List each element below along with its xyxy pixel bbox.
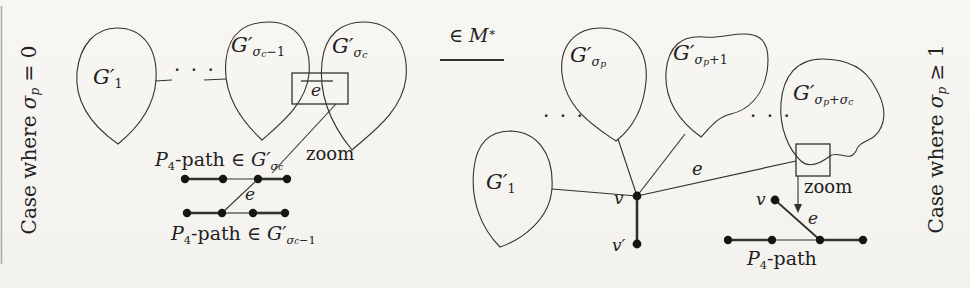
edge-g1-to-dots-left (155, 80, 172, 81)
vprime-label: v′ (612, 237, 625, 254)
ellipsis-right-1: · · · (543, 106, 585, 126)
vertex-v (633, 192, 642, 201)
vertex-dot (254, 175, 262, 183)
p4-bottom-label: P4-path ∈ G′σc−1 (171, 224, 316, 246)
vertex-dot (816, 236, 824, 244)
blob-gsp-plus1-label: G′σp+1 (673, 43, 728, 67)
blob-g1-left-label: G′1 (93, 67, 123, 91)
figure-canvas: Case where σp = 0 G′1 · · · G′σc−1 G′σc … (0, 0, 970, 288)
vertex-dot (768, 236, 776, 244)
blob-g1-right-label: G′1 (486, 172, 516, 196)
ellipsis-right-2: · · · (750, 106, 792, 126)
zoom-label-left: zoom (306, 145, 354, 163)
edge-e-left-label: e (245, 186, 255, 203)
p4-top-label: P4-path ∈ G′σc (155, 150, 283, 172)
p4-vertices-left (181, 175, 291, 217)
vertex-dot (859, 236, 867, 244)
vertex-dot (219, 175, 227, 183)
vertex-dot (281, 209, 289, 217)
vertex-vprime (633, 240, 642, 249)
p4-right-label: P4-path (747, 249, 817, 271)
zoom-arrow-head (794, 204, 802, 213)
vertex-v-inset (771, 196, 780, 205)
blob-gsp-plus-sc-label: G′σp+σc (793, 83, 853, 107)
vertex-dot (181, 175, 189, 183)
vertex-dot (283, 175, 291, 183)
vertex-dot (183, 209, 191, 217)
edge-v-to-g1 (552, 189, 637, 196)
vertex-dot (249, 209, 257, 217)
case-label-right: Case where σp ≥ 1 (926, 45, 949, 234)
edge-e-left-box-label: e (311, 82, 321, 99)
case-label-left: Case where σp = 0 (19, 46, 42, 235)
blob-gsp-label: G′σp (570, 45, 606, 69)
zoom-label-right: zoom (804, 178, 852, 196)
inset-v-label: v (756, 191, 766, 208)
v-label: v (614, 190, 624, 207)
edge-e-right-main (637, 161, 796, 196)
vertex-dot (218, 209, 226, 217)
inset-e-label: e (808, 210, 818, 227)
vertex-dot (724, 236, 732, 244)
blob-gsc-label: G′σc (332, 36, 367, 60)
ellipsis-left: · · · (174, 60, 216, 80)
legend-label: ∈ M∗ (449, 26, 496, 45)
blob-gsc-minus1-label: G′σc−1 (231, 35, 285, 59)
edge-e-right-label: e (692, 160, 703, 178)
